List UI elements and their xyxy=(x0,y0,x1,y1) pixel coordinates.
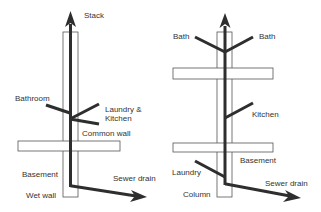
stack-arrow-icon-right xyxy=(220,13,231,28)
label-bath-left: Bath xyxy=(173,32,189,41)
label-stack: Stack xyxy=(84,11,105,20)
sewer-drain-left xyxy=(71,186,137,196)
label-basement-left: Basement xyxy=(22,170,59,179)
label-basement-right: Basement xyxy=(240,156,277,165)
label-bathroom: Bathroom xyxy=(15,94,50,103)
label-laundry-right: Laundry xyxy=(172,168,201,177)
label-common-wall: Common wall xyxy=(82,129,131,138)
floor-slab-upper xyxy=(173,68,273,79)
label-sewer-drain-right: Sewer drain xyxy=(265,179,308,188)
label-kitchen-right: Kitchen xyxy=(252,110,279,119)
wet-wall-diagram: Stack Bathroom Laundry & Kitchen Common … xyxy=(15,11,156,202)
label-sewer-drain-left: Sewer drain xyxy=(113,174,156,183)
plumbing-diagram: Stack Bathroom Laundry & Kitchen Common … xyxy=(0,0,321,212)
column-diagram: Bath Bath Kitchen Basement Laundry Sewer… xyxy=(172,13,308,202)
label-laundry: Laundry & xyxy=(105,105,142,114)
floor-slab-lower xyxy=(173,143,273,152)
label-bath-right: Bath xyxy=(259,32,275,41)
label-kitchen-left: Kitchen xyxy=(105,114,132,123)
label-column: Column xyxy=(183,190,211,199)
label-wet-wall: Wet wall xyxy=(26,191,56,200)
